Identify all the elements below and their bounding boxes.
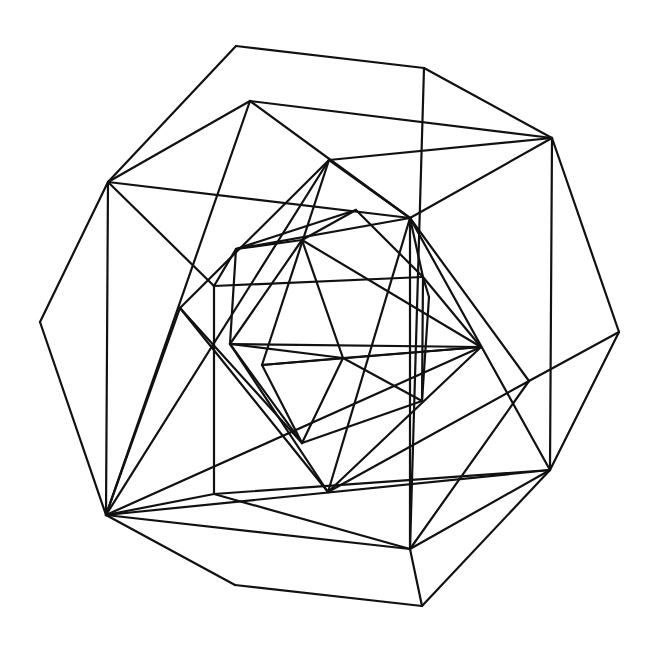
edge-J-L (108, 182, 410, 218)
edge-R-V (230, 240, 302, 344)
edge-Q-Z (356, 210, 423, 277)
edge-J-K (108, 101, 250, 182)
edge-A-B (236, 46, 424, 68)
edge-R-X (302, 240, 343, 358)
edge-I-J (40, 182, 108, 322)
edge-H-I (40, 322, 106, 515)
edge-Y-Z (423, 277, 481, 347)
edge-N-F (410, 549, 422, 606)
edge-C-D (552, 138, 619, 332)
edge-B-C (424, 68, 552, 138)
edge-S-V (230, 249, 236, 344)
edge-E-L (410, 218, 550, 470)
edge-Q-S (236, 210, 356, 249)
edge-U-AD (180, 308, 328, 492)
edge-P-U (180, 160, 329, 308)
edge-K-C (250, 101, 552, 138)
edge-H-U (106, 308, 180, 515)
edge-G-H (106, 515, 235, 585)
edge-N-H (106, 515, 410, 549)
edge-J-H (106, 182, 108, 515)
edge-D-O (529, 332, 619, 381)
edge-C-E (550, 138, 552, 470)
edge-R-Y (302, 240, 481, 347)
edge-J-T (108, 182, 214, 286)
edge-E-F (422, 470, 550, 606)
edge-M-E (214, 470, 550, 494)
wireframe-edges (40, 46, 619, 606)
edge-O-N (410, 381, 529, 549)
polyhedron-wireframe (0, 0, 659, 650)
edge-N-M (214, 494, 410, 549)
edge-W-X (262, 358, 343, 365)
edge-AB-Z (422, 277, 423, 401)
edge-J-A (108, 46, 236, 182)
edge-M-H (106, 494, 214, 515)
edge-P-W (262, 160, 329, 365)
edge-F-G (235, 585, 422, 606)
edge-D-E (550, 332, 619, 470)
edge-S-T (214, 249, 236, 286)
